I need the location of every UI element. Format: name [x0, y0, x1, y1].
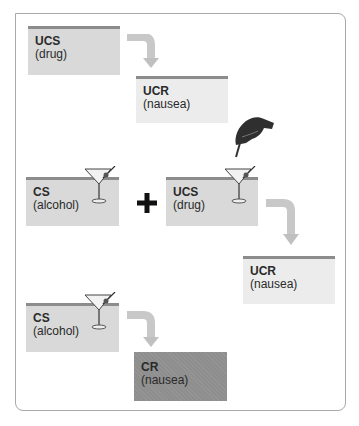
ucr-nausea-box-2: UCR (nausea): [243, 256, 335, 304]
cr-nausea-box: CR (nausea): [134, 352, 227, 401]
nausea-sublabel: (nausea): [250, 278, 335, 291]
arrow-icon: [125, 34, 161, 74]
martini-glass-icon: [84, 292, 118, 332]
martini-glass-icon: [224, 166, 258, 206]
arrow-icon: [125, 311, 161, 351]
ucs-drug-box-1: UCS (drug): [28, 26, 120, 75]
arrow-icon: [263, 198, 303, 248]
martini-glass-icon: [84, 166, 118, 206]
nausea-sublabel: (nausea): [141, 374, 227, 387]
ucr-nausea-box-1: UCR (nausea): [136, 76, 228, 123]
nausea-sublabel: (nausea): [143, 98, 228, 111]
drug-sublabel: (drug): [35, 48, 120, 61]
hand-with-dropper-icon: [228, 115, 278, 160]
plus-icon: [136, 192, 158, 214]
